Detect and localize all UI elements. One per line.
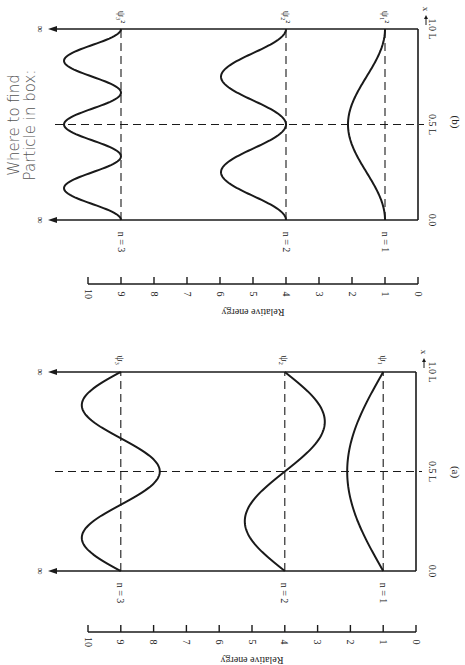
panel-b-probability-density: ∞∞n = 1ψ₁²n = 2ψ₂²n = 3ψ₃²0.00.5 L1.0 Lx… (35, 7, 463, 318)
position-tick-half: 0.5 L (427, 461, 438, 482)
n-label-3: n = 3 (116, 232, 127, 253)
energy-tick-label: 2 (347, 292, 358, 297)
energy-tick-label: 6 (214, 640, 225, 645)
psi-label-1: ψ₁² (380, 11, 391, 24)
energy-tick-label: 0 (413, 292, 424, 297)
energy-tick-label: 4 (279, 640, 290, 645)
energy-tick-label: 5 (248, 292, 259, 297)
infinity-label: ∞ (35, 567, 46, 574)
position-tick-half: 0.5 L (427, 114, 438, 135)
psi-label-2: ψ₂ (279, 355, 290, 365)
energy-tick-label: 8 (149, 292, 160, 297)
n-label-1: n = 1 (378, 583, 389, 604)
infinity-label: ∞ (35, 216, 46, 223)
panel-caption: (b) (449, 116, 462, 129)
energy-tick-label: 7 (182, 292, 193, 297)
infinity-label: ∞ (35, 368, 46, 375)
x-axis-label: x (419, 350, 429, 355)
position-tick-0: 0.0 (427, 565, 438, 578)
energy-tick-label: 10 (83, 637, 94, 647)
energy-tick-label: 1 (380, 292, 391, 297)
particle-in-box-figure: Where to findParticle in box: ∞∞n = 1ψ₁²… (0, 0, 465, 665)
energy-tick-label: 3 (314, 292, 325, 297)
handwritten-annotation: Where to findParticle in box: (5, 70, 39, 181)
panel-caption: (a) (449, 466, 462, 479)
psi-label-3: ψ₃² (116, 11, 127, 24)
psi-label-2: ψ₂² (281, 11, 292, 24)
energy-tick-label: 9 (116, 292, 127, 297)
arrow-head-icon (48, 26, 57, 32)
arrow-head-icon (48, 217, 57, 223)
energy-axis-label: Relative energy (221, 655, 284, 665)
energy-tick-label: 2 (345, 640, 356, 645)
n-label-1: n = 1 (380, 232, 391, 253)
energy-tick-label: 4 (281, 292, 292, 297)
arrow-head-icon (48, 568, 57, 574)
n-label-3: n = 3 (115, 583, 126, 604)
position-tick-L: 1.0 L (427, 361, 438, 382)
curve-n1 (347, 372, 383, 571)
psi-label-1: ψ₁ (378, 355, 389, 365)
psi-label-3: ψ₃ (115, 355, 126, 365)
annotation-line2: Particle in box: (21, 70, 39, 181)
energy-tick-label: 3 (312, 640, 323, 645)
x-axis-label: x (421, 7, 431, 12)
position-tick-L: 1.0 L (427, 18, 438, 39)
infinity-label: ∞ (35, 25, 46, 32)
n-label-2: n = 2 (279, 583, 290, 604)
energy-tick-label: 9 (115, 640, 126, 645)
energy-tick-label: 10 (83, 289, 94, 299)
energy-axis-label: Relative energy (222, 307, 285, 318)
arrow-head-icon (48, 369, 57, 375)
energy-tick-label: 8 (148, 640, 159, 645)
energy-tick-label: 7 (181, 640, 192, 645)
x-arrow-head-icon (424, 15, 428, 19)
x-arrow-head-icon (422, 358, 426, 362)
curve-n1 (348, 29, 385, 220)
panel-a-wavefunction: ∞∞n = 1ψ₁n = 2ψ₂n = 3ψ₃0.00.5 L1.0 Lx(a)… (35, 350, 463, 665)
n-label-2: n = 2 (281, 232, 292, 253)
energy-tick-label: 6 (215, 292, 226, 297)
energy-tick-label: 0 (411, 640, 422, 645)
energy-tick-label: 1 (378, 640, 389, 645)
position-tick-0: 0.0 (427, 214, 438, 227)
energy-tick-label: 5 (247, 640, 258, 645)
